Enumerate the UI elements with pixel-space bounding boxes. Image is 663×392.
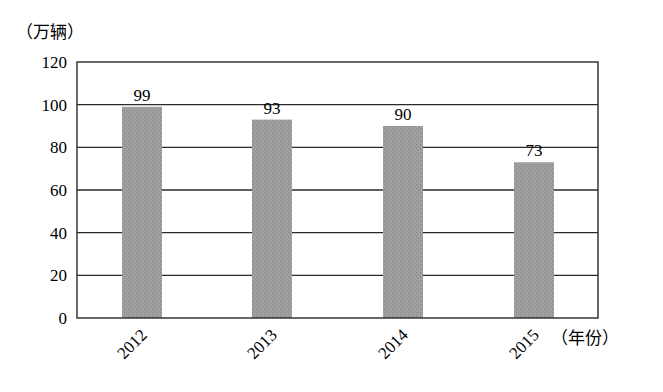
data-label-2012: 99 — [134, 86, 151, 105]
x-tick-label: 2015 — [505, 325, 542, 362]
x-tick-label: 2012 — [113, 325, 150, 362]
y-tick-label: 100 — [42, 96, 68, 115]
x-tick-label: 2013 — [243, 325, 280, 362]
bar-2014 — [383, 126, 423, 318]
x-axis-ticks: 2012201320142015 — [113, 325, 542, 363]
data-labels: 99939073 — [134, 86, 543, 160]
y-tick-label: 80 — [50, 138, 67, 157]
bars — [122, 107, 554, 318]
y-tick-label: 20 — [50, 266, 67, 285]
data-label-2013: 93 — [264, 99, 281, 118]
bar-2012 — [122, 107, 162, 318]
bar-chart: 020406080100120 2012201320142015 9993907… — [0, 0, 663, 392]
x-axis-unit-label: （年份） — [551, 328, 619, 348]
y-tick-label: 60 — [50, 181, 67, 200]
y-axis-unit-label: （万辆） — [16, 22, 84, 42]
data-label-2014: 90 — [395, 105, 412, 124]
y-tick-label: 0 — [59, 309, 68, 328]
y-tick-label: 120 — [42, 53, 68, 72]
bar-2013 — [252, 120, 292, 318]
x-tick-label: 2014 — [374, 325, 412, 363]
y-tick-label: 40 — [50, 224, 67, 243]
y-axis-ticks: 020406080100120 — [42, 53, 68, 328]
bar-2015 — [514, 162, 554, 318]
data-label-2015: 73 — [526, 141, 543, 160]
